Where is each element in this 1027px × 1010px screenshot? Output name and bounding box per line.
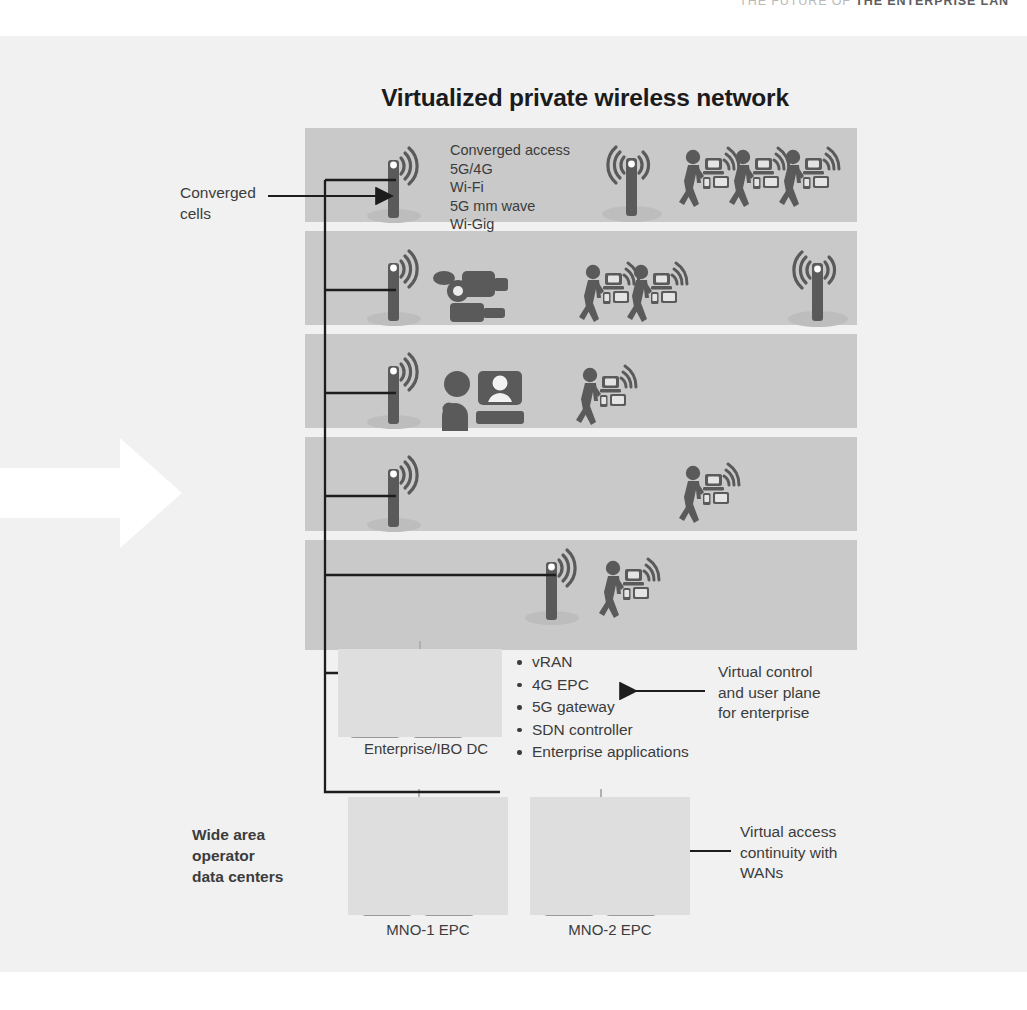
floor-3-video-conference xyxy=(442,371,524,431)
converged-cells-line-0: Converged xyxy=(180,183,256,204)
virtual-control-line-1: and user plane xyxy=(718,683,821,704)
floor-1-user-1 xyxy=(679,148,739,207)
floor-2-antenna-right xyxy=(788,252,848,327)
virtual-access-line-2: WANs xyxy=(740,863,837,884)
dc-function-0: vRAN xyxy=(515,651,689,674)
enterprise-dc-function-list: vRAN 4G EPC 5G gateway SDN controller En… xyxy=(515,651,689,764)
floor-1-antenna-right xyxy=(602,147,662,222)
virtual-access-line-0: Virtual access xyxy=(740,822,837,843)
floor-1-antenna-left xyxy=(367,148,421,223)
dc-function-2: 5G gateway xyxy=(515,696,689,719)
virtual-control-line-2: for enterprise xyxy=(718,703,821,724)
mno-1-dc-caption: MNO-1 EPC xyxy=(348,921,508,938)
wide-area-line-2: data centers xyxy=(192,866,283,887)
access-item-3: Wi-Gig xyxy=(450,215,570,234)
access-item-1: Wi-Fi xyxy=(450,178,570,197)
dc-function-3: SDN controller xyxy=(515,719,689,742)
converged-cells-line-1: cells xyxy=(180,204,256,225)
virtual-access-line-1: continuity with xyxy=(740,843,837,864)
wide-area-label: Wide area operator data centers xyxy=(192,824,283,887)
floor-3-user-1 xyxy=(576,366,636,425)
floor-2-video-camera xyxy=(433,271,508,322)
access-item-2: 5G mm wave xyxy=(450,197,570,216)
dc-function-1: 4G EPC xyxy=(515,674,689,697)
floor-2-antenna-left xyxy=(367,251,421,326)
mno-1-dc-block[interactable] xyxy=(348,797,508,915)
access-technologies-caption: Converged access 5G/4G Wi-Fi 5G mm wave … xyxy=(450,141,570,234)
floor-3-antenna-left xyxy=(367,354,421,429)
enterprise-dc-caption: Enterprise/IBO DC xyxy=(338,740,514,757)
dc-function-4: Enterprise applications xyxy=(515,741,689,764)
mno-2-dc-caption: MNO-2 EPC xyxy=(530,921,690,938)
wide-area-line-1: operator xyxy=(192,845,283,866)
virtual-access-label: Virtual access continuity with WANs xyxy=(740,822,837,884)
floor-1-user-3 xyxy=(779,148,839,207)
virtual-control-label: Virtual control and user plane for enter… xyxy=(718,662,821,724)
floor-1-user-2 xyxy=(729,148,789,207)
converged-cells-label: Converged cells xyxy=(180,183,256,224)
wide-area-line-0: Wide area xyxy=(192,824,283,845)
enterprise-dc-block[interactable] xyxy=(338,649,502,737)
virtual-control-line-0: Virtual control xyxy=(718,662,821,683)
floor-5-user-1 xyxy=(599,559,659,618)
access-heading: Converged access xyxy=(450,141,570,160)
mno-2-dc-block[interactable] xyxy=(530,797,690,915)
access-item-0: 5G/4G xyxy=(450,160,570,179)
floor-5-antenna-center xyxy=(525,550,579,625)
floor-2-user-2 xyxy=(627,263,687,322)
floor-4-antenna-left xyxy=(367,457,421,532)
floor-4-user-1 xyxy=(679,464,739,523)
